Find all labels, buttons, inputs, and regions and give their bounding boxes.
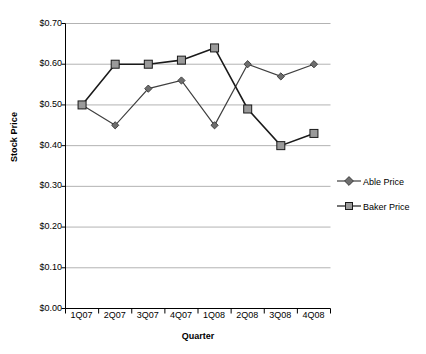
legend-label-baker-price: Baker Price <box>363 202 410 212</box>
legend-label-able-price: Able Price <box>363 177 404 187</box>
data-point-able-price <box>310 61 317 68</box>
data-point-able-price <box>277 73 284 80</box>
data-point-baker-price <box>78 101 86 109</box>
data-point-baker-price <box>144 60 152 68</box>
data-point-able-price <box>244 61 251 68</box>
data-point-baker-price <box>244 105 252 113</box>
series-line-able-price <box>82 64 314 125</box>
x-axis-tick-labels: 1Q072Q073Q074Q071Q082Q083Q084Q08 <box>65 310 331 326</box>
data-point-baker-price <box>211 44 219 52</box>
legend-entry-able-price: Able Price <box>345 176 425 201</box>
data-point-baker-price <box>111 60 119 68</box>
data-point-baker-price <box>177 56 185 64</box>
legend-entry-baker-price: Baker Price <box>345 201 425 226</box>
chart-legend: Able Price Baker Price <box>345 176 425 226</box>
data-point-baker-price <box>277 142 285 150</box>
stock-price-line-chart: Stock Price $0.70$0.60$0.50$0.40$0.30$0.… <box>0 0 426 354</box>
diamond-marker-icon <box>336 175 362 187</box>
x-axis-title: Quarter <box>65 331 331 341</box>
data-point-baker-price <box>310 129 318 137</box>
x-axis-tick-label: 4Q08 <box>291 310 335 320</box>
square-marker-icon <box>336 200 362 212</box>
